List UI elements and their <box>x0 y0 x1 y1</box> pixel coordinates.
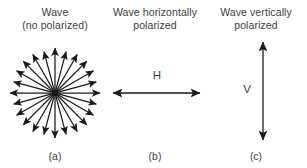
vertical-axis-label: V <box>238 83 256 95</box>
polarization-figure: Wave (no polarized) (a) Wave horizontall… <box>0 0 307 168</box>
horizontal-axis-label: H <box>148 69 166 81</box>
polarization-arrows-overlay <box>0 0 307 168</box>
